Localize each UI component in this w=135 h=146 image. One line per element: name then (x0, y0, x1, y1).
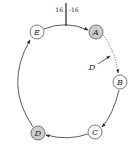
svg-text:E: E (33, 28, 40, 37)
node-e: E (30, 25, 44, 39)
pointer-label: D (88, 63, 96, 72)
edge-b-to-c (102, 90, 119, 127)
svg-text:D: D (34, 129, 42, 138)
svg-text:B: B (116, 78, 123, 87)
edge-a-to-b-dotted (103, 35, 118, 73)
tick-left-label: 16 (55, 6, 63, 13)
tick-right-label: -16 (69, 6, 79, 13)
svg-text:A: A (92, 28, 99, 37)
node-b: B (113, 75, 127, 89)
edge-d-to-e (18, 40, 33, 127)
pointer-arrow (98, 56, 110, 64)
ring-diagram: 16 -16 D E A B C D (0, 0, 135, 146)
node-c: C (88, 125, 102, 139)
node-d: D (31, 126, 45, 140)
node-a: A (89, 25, 103, 39)
svg-text:C: C (92, 128, 98, 137)
edge-c-to-d (46, 134, 88, 138)
